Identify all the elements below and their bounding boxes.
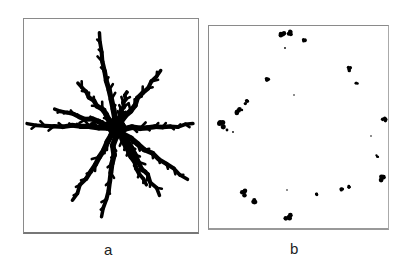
cluster-particle bbox=[283, 216, 288, 221]
panel-b-label: b bbox=[290, 241, 298, 256]
cluster-particle bbox=[253, 200, 257, 204]
cluster-particle bbox=[293, 94, 295, 96]
cluster-particle bbox=[265, 77, 269, 81]
cluster-particle bbox=[315, 193, 318, 196]
cluster-particle bbox=[242, 189, 246, 193]
cluster-particle bbox=[279, 33, 283, 37]
cluster-particle bbox=[246, 99, 249, 102]
dendrite-arm bbox=[102, 208, 104, 217]
panel-a-label: a bbox=[104, 242, 112, 257]
cluster-particle bbox=[370, 135, 372, 137]
dendrite-arm bbox=[99, 33, 100, 43]
dendrite-arm bbox=[55, 109, 61, 111]
cluster-particle bbox=[286, 189, 288, 191]
cluster-particle bbox=[356, 82, 359, 85]
cluster-particle bbox=[302, 39, 305, 42]
dendrite-arm bbox=[27, 124, 36, 126]
scattered-clusters bbox=[217, 29, 387, 220]
cluster-particle bbox=[289, 30, 293, 34]
cluster-particle bbox=[288, 213, 293, 218]
dendrite-arm bbox=[125, 92, 127, 95]
figure-canvas bbox=[0, 0, 410, 275]
cluster-particle bbox=[241, 109, 243, 111]
cluster-particle bbox=[217, 121, 222, 126]
dendrite-arm bbox=[180, 175, 188, 179]
cluster-particle bbox=[232, 131, 234, 133]
cluster-particle bbox=[284, 47, 286, 49]
dendrite-arm bbox=[185, 124, 193, 125]
cluster-particle bbox=[347, 186, 350, 189]
cluster-particle bbox=[226, 129, 229, 132]
cluster-particle bbox=[221, 124, 226, 129]
cluster-particle bbox=[381, 118, 385, 122]
cluster-particle bbox=[349, 66, 352, 69]
cluster-particle bbox=[341, 187, 344, 190]
cluster-particle bbox=[375, 154, 377, 156]
cluster-particle bbox=[379, 178, 384, 183]
dendrite-aggregate bbox=[27, 33, 193, 217]
cluster-particle bbox=[377, 156, 379, 158]
